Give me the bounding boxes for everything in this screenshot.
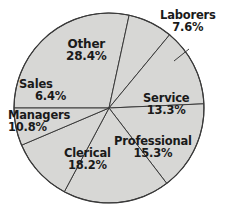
slice-label-clerical-value: 18.2% bbox=[64, 160, 111, 172]
slice-label-professional-value: 15.3% bbox=[114, 148, 192, 160]
slice-label-managers-value: 10.8% bbox=[8, 122, 70, 134]
slice-label-service: Service 13.3% bbox=[143, 93, 189, 117]
slice-label-other-value: 28.4% bbox=[66, 50, 107, 62]
slice-label-professional: Professional 15.3% bbox=[114, 136, 192, 160]
slice-label-sales: Sales 6.4% bbox=[19, 79, 66, 103]
slice-label-other: Other 28.4% bbox=[66, 38, 107, 63]
slice-label-laborers: Laborers 7.6% bbox=[160, 10, 216, 34]
slice-label-clerical: Clerical 18.2% bbox=[64, 148, 111, 172]
slice-label-laborers-value: 7.6% bbox=[160, 22, 216, 34]
slice-label-service-value: 13.3% bbox=[143, 105, 189, 117]
pie-chart: Other 28.4% Laborers 7.6% Service 13.3% … bbox=[0, 0, 230, 216]
slice-label-sales-value: 6.4% bbox=[35, 91, 66, 103]
slice-label-managers: Managers 10.8% bbox=[8, 110, 70, 134]
